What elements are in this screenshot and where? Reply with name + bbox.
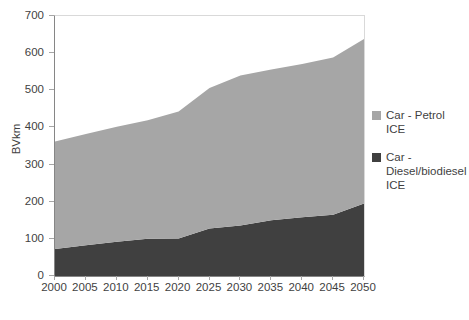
stacked-area-svg: [55, 16, 364, 276]
y-axis-tick-label: 700: [0, 9, 44, 21]
x-axis-tick-mark: [85, 276, 86, 280]
x-axis-tick-mark: [178, 276, 179, 280]
y-axis-tick-labels: 0100200300400500600700: [0, 0, 48, 320]
x-axis-tick-mark: [363, 276, 364, 280]
y-axis-tick-label: 100: [0, 232, 44, 244]
x-axis-tick-mark: [270, 276, 271, 280]
x-axis-tick-mark: [54, 276, 55, 280]
x-axis-tick-mark: [116, 276, 117, 280]
plot-area: [54, 15, 365, 277]
x-axis-tick-mark: [209, 276, 210, 280]
legend-swatch-icon: [372, 153, 381, 162]
chart-page: 0100200300400500600700 BVkm 200020052010…: [0, 0, 469, 320]
legend-label: Car - Petrol ICE: [386, 108, 467, 136]
x-axis-tick-mark: [239, 276, 240, 280]
x-axis-tick-label: 2050: [341, 281, 385, 294]
y-axis-tick-label: 400: [0, 120, 44, 132]
y-axis-tick-label: 500: [0, 83, 44, 95]
legend-entry[interactable]: Car - Petrol ICE: [372, 108, 467, 136]
legend-swatch-icon: [372, 111, 381, 120]
x-axis-tick-mark: [301, 276, 302, 280]
legend-label: Car - Diesel/biodiesel ICE: [386, 150, 467, 192]
y-axis-tick-label: 300: [0, 158, 44, 170]
x-axis-tick-labels: 2000200520102015202020252030203520402045…: [0, 281, 469, 297]
chart-legend: Car - Petrol ICECar - Diesel/biodiesel I…: [372, 108, 467, 206]
legend-entry[interactable]: Car - Diesel/biodiesel ICE: [372, 150, 467, 192]
x-axis-tick-mark: [332, 276, 333, 280]
y-axis-title: BVkm: [10, 109, 22, 169]
y-axis-tick-label: 600: [0, 46, 44, 58]
x-axis-tick-mark: [147, 276, 148, 280]
y-axis-tick-label: 200: [0, 195, 44, 207]
